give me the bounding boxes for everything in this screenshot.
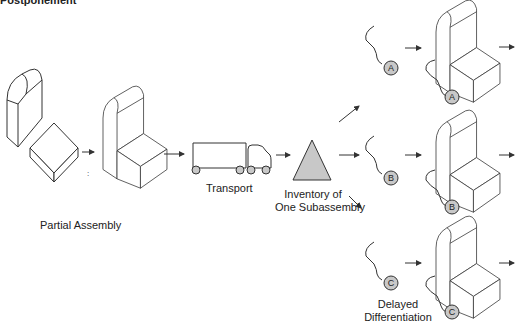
arrow-to-a-icon [339,106,359,122]
delayed-label-line2: Differentiation [360,311,436,324]
variant-c-component-icon: C [366,242,398,290]
back-subassembly-icon [7,69,42,147]
chair-variant-b-icon [436,110,500,212]
inventory-label: Inventory of One Subassembly [275,188,351,214]
delayed-differentiation-label: Delayed Differentiation [360,298,436,324]
partial-assembly-label: Partial Assembly [40,219,121,232]
seat-subassembly-icon [30,123,78,182]
postponement-diagram: : A A B B [0,0,519,324]
chair-variant-a-icon [436,0,500,102]
svg-text:C: C [388,278,395,288]
transport-label: Transport [206,182,253,195]
variant-b-component-icon: B [366,136,398,185]
chair-variant-c-icon [436,216,500,318]
assembled-chair-icon [103,86,167,188]
svg-text:A: A [388,63,394,73]
svg-text:B: B [449,202,455,212]
truck-icon [192,143,271,174]
svg-text:B: B [388,173,394,183]
inventory-label-line1: Inventory of [275,188,351,201]
inventory-label-line2: One Subassembly [275,201,351,214]
svg-text:A: A [449,92,455,102]
variant-a-component-icon: A [366,26,398,75]
delayed-label-line1: Delayed [360,298,436,311]
svg-text:C: C [449,307,456,317]
inventory-triangle-icon [293,140,331,180]
svg-text::: : [87,169,89,178]
